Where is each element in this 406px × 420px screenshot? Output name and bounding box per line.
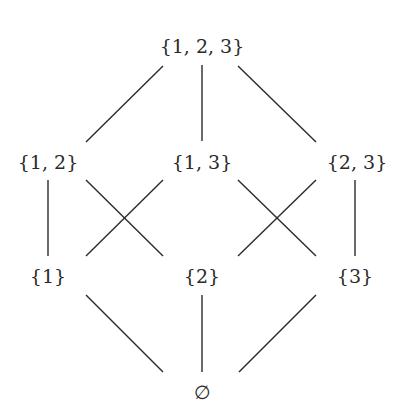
edge-s1-empty <box>86 295 163 372</box>
edge-top-s23 <box>238 66 316 142</box>
node-set-2: {2} <box>184 267 220 286</box>
node-set-1-3: {1, 3} <box>172 153 232 172</box>
node-set-1-2-3: {1, 2, 3} <box>160 37 245 56</box>
node-set-1-2: {1, 2} <box>18 153 78 172</box>
node-empty-set: ∅ <box>194 383 211 402</box>
node-set-3: {3} <box>337 267 373 286</box>
lattice-edges <box>0 0 406 420</box>
node-set-2-3: {2, 3} <box>327 153 387 172</box>
edge-top-s12 <box>86 66 163 142</box>
edge-s3-empty <box>239 295 316 372</box>
node-set-1: {1} <box>30 267 66 286</box>
